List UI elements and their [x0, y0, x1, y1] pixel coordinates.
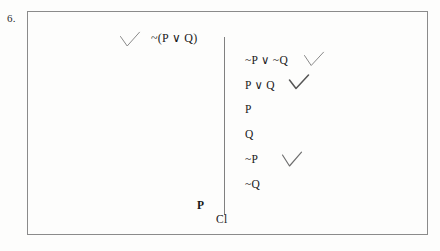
formula-root: ~(P ∨ Q) — [151, 31, 198, 46]
formula-branch-2: P — [245, 103, 252, 115]
check-icon-branch-4 — [281, 151, 303, 168]
formula-branch-3: Q — [245, 128, 254, 140]
formula-branch-0: ~P ∨ ~Q — [245, 53, 288, 67]
problem-number: 6. — [7, 12, 16, 24]
formula-branch-5: ~Q — [245, 178, 260, 190]
branch-line — [224, 37, 225, 215]
closure-label: Cl — [216, 213, 227, 225]
formula-left-branch: P — [197, 199, 204, 211]
check-icon-branch-0 — [303, 51, 325, 68]
check-icon-branch-1 — [288, 74, 310, 91]
formula-branch-4: ~P — [245, 153, 258, 165]
check-icon-root — [119, 31, 141, 48]
tableau-figure: 6. ~(P ∨ Q) ~P ∨ ~Q P ∨ Q P Q ~P ~Q P — [0, 0, 440, 251]
proof-box — [27, 11, 428, 235]
formula-branch-1: P ∨ Q — [245, 78, 275, 92]
